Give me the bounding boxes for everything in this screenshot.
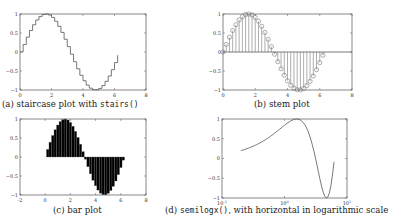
- y-tick-label: −1: [11, 87, 18, 93]
- x-tick-label: 6: [113, 92, 116, 98]
- caption-d: (d) semilogx(), with horizontal in logar…: [165, 205, 388, 215]
- caption-a: (a) staircase plot with stairs(): [2, 99, 139, 109]
- y-tick-label: −1: [11, 192, 18, 198]
- x-tick-label: 6: [318, 92, 321, 98]
- y-tick-label: 0.5: [10, 30, 18, 36]
- caption-c: (c) bar plot: [53, 205, 102, 215]
- x-tick-label: 2: [50, 92, 53, 98]
- y-tick-label: −1: [213, 195, 220, 201]
- plot-c: -202468−1−0.500.51: [6, 116, 148, 203]
- x-tick-label: 8: [350, 92, 353, 98]
- y-tick-label: 1: [217, 116, 220, 122]
- y-tick-label: 0: [217, 155, 220, 161]
- x-tick-label: 0: [18, 92, 21, 98]
- axes-frame: [222, 119, 347, 198]
- x-tick-label: 4: [286, 92, 289, 98]
- x-tick-label: 2: [254, 92, 257, 98]
- x-tick-label: 2: [69, 197, 72, 203]
- x-tick-label: 8: [144, 197, 147, 203]
- x-tick-label: 8: [144, 92, 147, 98]
- y-tick-label: −0.5: [208, 175, 220, 181]
- x-tick-label: -2: [18, 197, 23, 203]
- x-tick-label: 0: [221, 92, 224, 98]
- plot-d: 10-1100101−1−0.500.51: [208, 116, 351, 206]
- y-tick-label: 0.5: [213, 30, 221, 36]
- y-tick-label: 1: [15, 11, 18, 17]
- x-tick-label: 4: [81, 92, 84, 98]
- y-tick-label: 0.5: [212, 136, 220, 142]
- y-tick-label: 0: [15, 49, 18, 55]
- y-tick-label: 0: [15, 154, 18, 160]
- y-tick-label: −1: [214, 87, 221, 93]
- y-tick-label: 1: [15, 116, 18, 122]
- x-tick-label: 0: [44, 197, 47, 203]
- caption-b: (b) stem plot: [254, 99, 310, 109]
- x-tick-label: 4: [94, 197, 97, 203]
- y-tick-label: −0.5: [6, 173, 18, 179]
- y-tick-label: −0.5: [6, 68, 18, 74]
- y-tick-label: 0.5: [10, 135, 18, 141]
- y-tick-label: −0.5: [209, 68, 221, 74]
- plot-b: 02468−1−0.500.51: [209, 11, 354, 98]
- plot-a: 02468−1−0.500.51: [6, 11, 148, 98]
- y-tick-label: 1: [218, 11, 221, 17]
- x-tick-label: 6: [119, 197, 122, 203]
- figure-canvas: 02468−1−0.500.5102468−1−0.500.51-202468−…: [0, 0, 400, 224]
- y-tick-label: 0: [218, 49, 221, 55]
